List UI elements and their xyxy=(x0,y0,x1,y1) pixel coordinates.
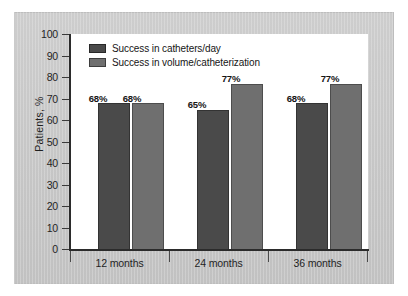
legend-label-catheters-day: Success in catheters/day xyxy=(112,43,221,54)
y-tick-label-30: 30 xyxy=(32,179,58,191)
y-tick-label-0: 0 xyxy=(32,243,58,255)
y-tick-label-20: 20 xyxy=(32,200,58,212)
x-axis-line xyxy=(69,249,369,251)
bar-36months-catheters-day xyxy=(296,103,328,250)
bar-value-36months-catheters-day: 68% xyxy=(280,93,312,104)
bar-24months-volume-catheterization xyxy=(231,84,263,250)
y-tick-label-100: 100 xyxy=(32,28,58,40)
y-tick-70 xyxy=(62,99,69,100)
y-tick-0 xyxy=(62,249,69,250)
legend-item-catheters-day: Success in catheters/day xyxy=(89,42,260,55)
bar-24months-catheters-day xyxy=(197,110,229,250)
bar-36months-volume-catheterization xyxy=(330,84,362,250)
y-tick-40 xyxy=(62,163,69,164)
bar-12months-volume-catheterization xyxy=(132,103,164,250)
bar-value-12months-catheters-day: 68% xyxy=(82,93,114,104)
bar-12months-catheters-day xyxy=(98,103,130,250)
y-tick-20 xyxy=(62,206,69,207)
legend-item-volume-catheterization: Success in volume/catheterization xyxy=(89,56,260,69)
legend-swatch-icon-volume-catheterization xyxy=(89,58,106,67)
y-tick-90 xyxy=(62,56,69,57)
bar-value-24months-volume-catheterization: 77% xyxy=(215,73,247,84)
y-tick-50 xyxy=(62,142,69,143)
chart-screenshot: 100 90 80 70 60 50 40 30 20 10 0 Patient… xyxy=(0,0,408,296)
y-axis-line xyxy=(69,34,71,251)
y-axis-title: Patients, % xyxy=(33,79,45,169)
y-tick-label-10: 10 xyxy=(32,222,58,234)
y-tick-80 xyxy=(62,77,69,78)
legend-label-volume-catheterization: Success in volume/catheterization xyxy=(112,57,260,68)
x-axis-separator-right xyxy=(367,251,368,262)
y-tick-30 xyxy=(62,185,69,186)
x-axis-label-24-months: 24 months xyxy=(169,257,268,269)
bar-value-12months-volume-catheterization: 68% xyxy=(116,93,148,104)
legend-swatch-icon-catheters-day xyxy=(89,44,106,53)
bar-value-36months-volume-catheterization: 77% xyxy=(314,73,346,84)
legend: Success in catheters/day Success in volu… xyxy=(89,42,260,70)
y-tick-10 xyxy=(62,228,69,229)
bar-value-24months-catheters-day: 65% xyxy=(181,99,213,110)
y-tick-label-90: 90 xyxy=(32,50,58,62)
y-tick-100 xyxy=(62,34,69,35)
x-axis-label-12-months: 12 months xyxy=(70,257,169,269)
y-tick-60 xyxy=(62,120,69,121)
x-axis-label-36-months: 36 months xyxy=(268,257,367,269)
